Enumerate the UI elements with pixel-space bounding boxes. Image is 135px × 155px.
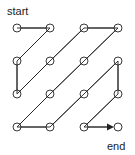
scan-path xyxy=(0,0,135,155)
path-segment xyxy=(84,28,118,61)
arrowhead-icon xyxy=(107,124,114,131)
path-segment xyxy=(17,28,50,61)
zigzag-diagram: start end xyxy=(0,0,135,155)
path-segment xyxy=(17,94,50,127)
path-segment xyxy=(17,61,50,94)
path-segment xyxy=(84,61,118,94)
path-segment xyxy=(50,28,84,61)
grid-node xyxy=(114,123,122,131)
path-segment xyxy=(50,94,84,127)
path-segment xyxy=(84,94,118,127)
path-segment xyxy=(50,61,84,94)
